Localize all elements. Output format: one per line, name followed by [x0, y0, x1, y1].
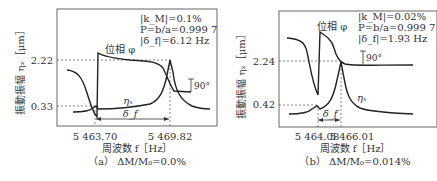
figure: 振動振幅 ηₓ［μm］ 2.22 0.33 δ_f ηₓ 位相 φ 90° |k… [0, 0, 437, 181]
phase-scale-a: 90° [194, 81, 210, 91]
x-axis-label-b: 周波数 f［Hz］ [320, 142, 391, 154]
amp-label-a: ηₓ [123, 95, 133, 106]
phase-label-a: 位相 φ [105, 43, 135, 55]
y-tick-low-b: 0.42 [253, 99, 275, 110]
delta-label-a: δ_f [123, 108, 140, 120]
panel-b: 振動振幅 ηₓ［μm］ 2.24 0.42 δ_f ηₓ 位相 φ 90° |k… [235, 11, 437, 167]
phase-label-b: 位相 φ [317, 20, 347, 32]
panel-a: 振動振幅 ηₓ［μm］ 2.22 0.33 δ_f ηₓ 位相 φ 90° |k… [14, 9, 217, 167]
y-tick-high-a: 2.22 [31, 55, 53, 66]
x-tick-2-a: 5 469.82 [148, 131, 193, 142]
x-tick-1-a: 5 463.70 [73, 131, 118, 142]
caption-b: （b） ΔM/M₀=0.014% [299, 156, 410, 167]
amp-label-b: ηₓ [357, 92, 367, 103]
x-axis-label-a: 周波数 f［Hz］ [102, 142, 173, 154]
y-tick-high-b: 2.24 [253, 56, 275, 67]
phase-scale-b: 90° [366, 53, 382, 63]
param-P-a: P=b/a=0.999 7 [140, 24, 217, 35]
delta-label-b: δ_f [323, 108, 340, 120]
amplitude-curve-b [289, 62, 413, 114]
x-tick-2-b: 5 466.01 [330, 131, 375, 142]
param-delta-a: |δ_f|=6.12 Hz [140, 35, 209, 47]
y-axis-label-a: 振動振幅 ηₓ［μm］ [14, 25, 26, 114]
arrowhead-right-a [164, 117, 169, 121]
param-P-b: P=b/a=0.999 7 [358, 22, 435, 33]
y-axis-label-b: 振動振幅 ηₓ［μm］ [235, 29, 247, 118]
caption-a: （a） ΔM/M₀=0.0% [88, 156, 186, 167]
y-tick-low-a: 0.33 [31, 101, 53, 112]
param-delta-b: |δ_f|=1.93 Hz [358, 33, 427, 45]
amplitude-curve-a [73, 60, 210, 112]
